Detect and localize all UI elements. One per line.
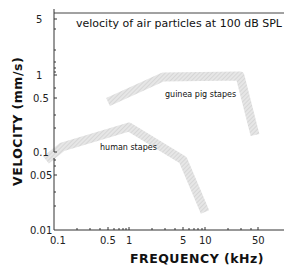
x-tick-10: 10 xyxy=(199,235,212,246)
x-tick-0.5: 0.5 xyxy=(100,235,116,246)
human-stapes-band xyxy=(46,127,205,212)
x-tick-0.1: 0.1 xyxy=(50,235,66,246)
y-tick-5: 5 xyxy=(36,14,42,25)
x-tick-50: 50 xyxy=(252,235,265,246)
x-tick-1: 1 xyxy=(126,235,132,246)
human-stapes-label: human stapes xyxy=(100,143,157,152)
y-tick-0.1: 0.1 xyxy=(33,147,49,158)
y-tick-0.05: 0.05 xyxy=(30,170,52,181)
y-tick-1: 1 xyxy=(36,70,42,81)
velocity-frequency-chart: 5 1 0.5 0.1 0.05 0.01 0.1 0.5 1 5 10 50 … xyxy=(0,0,292,270)
y-axis xyxy=(54,9,57,230)
y-tick-0.5: 0.5 xyxy=(33,93,49,104)
guinea-pig-stapes-label: guinea pig stapes xyxy=(165,90,236,99)
x-axis-title: FREQUENCY (kHz) xyxy=(130,251,264,266)
x-axis xyxy=(54,227,284,230)
y-tick-0.01: 0.01 xyxy=(30,225,52,236)
x-tick-5: 5 xyxy=(180,235,186,246)
y-axis-title: VELOCITY (mm/s) xyxy=(10,57,25,186)
chart-title: velocity of air particles at 100 dB SPL xyxy=(76,17,283,30)
